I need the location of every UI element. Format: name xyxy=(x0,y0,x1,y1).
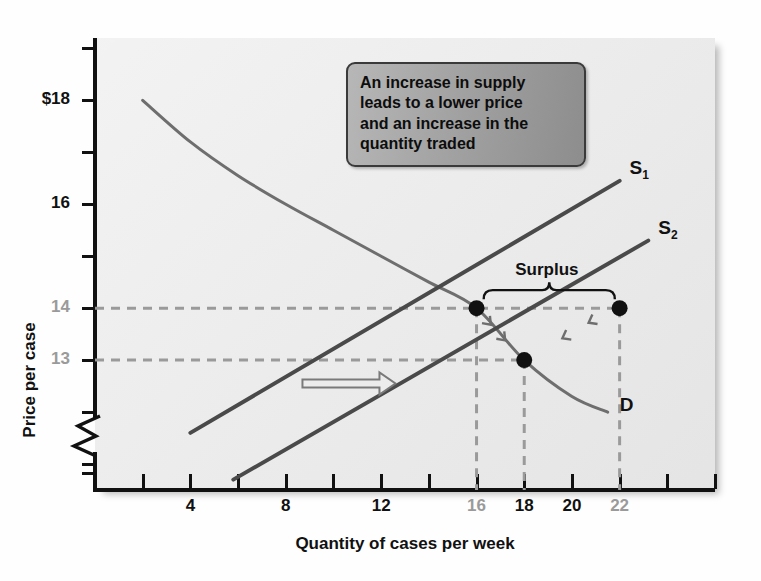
y-axis-break-icon xyxy=(62,414,102,458)
curve-label-s2: S2 xyxy=(658,217,677,242)
y-tick xyxy=(82,411,96,414)
x-tick xyxy=(523,474,526,489)
y-tick-label: 13 xyxy=(51,349,82,369)
x-tick xyxy=(189,474,192,489)
y-tick xyxy=(82,151,96,154)
callout-line-3: and an increase in the xyxy=(360,114,572,134)
x-tick xyxy=(714,474,717,489)
y-tick-label: 14 xyxy=(51,297,82,317)
y-tick-label: $18 xyxy=(42,89,82,109)
x-axis xyxy=(93,488,715,492)
callout-line-2: leads to a lower price xyxy=(360,93,572,113)
y-tick-label: 16 xyxy=(51,193,82,213)
callout-line-1: An increase in supply xyxy=(360,73,572,93)
x-tick xyxy=(380,474,383,489)
surplus-label: Surplus xyxy=(515,260,578,280)
y-axis-title: Price per case xyxy=(20,280,40,480)
x-tick-label: 20 xyxy=(552,496,592,516)
x-tick xyxy=(237,474,240,489)
x-tick-label: 8 xyxy=(266,496,306,516)
x-tick xyxy=(285,474,288,489)
x-tick xyxy=(571,474,574,489)
curve-label-d: D xyxy=(620,394,634,416)
y-tick xyxy=(82,359,96,362)
y-tick xyxy=(82,47,96,50)
callout-line-4: quantity traded xyxy=(360,134,572,154)
x-tick xyxy=(666,474,669,489)
x-axis-title: Quantity of cases per week xyxy=(95,534,715,554)
x-tick-label: 4 xyxy=(170,496,210,516)
y-tick xyxy=(82,307,96,310)
x-tick-label: 16 xyxy=(457,496,497,516)
y-tick xyxy=(82,255,96,258)
x-tick xyxy=(428,474,431,489)
figure-canvas: $18161413 481216182022 Price per case Qu… xyxy=(0,0,761,581)
x-tick-label: 12 xyxy=(361,496,401,516)
x-tick xyxy=(142,474,145,489)
y-tick-below-break xyxy=(82,472,96,475)
y-tick xyxy=(82,463,96,466)
y-tick xyxy=(82,203,96,206)
y-tick xyxy=(82,99,96,102)
callout-box: An increase in supplyleads to a lower pr… xyxy=(346,62,586,167)
curve-label-s1: S1 xyxy=(630,157,649,182)
x-tick xyxy=(332,474,335,489)
x-tick xyxy=(476,474,479,489)
x-tick-label: 22 xyxy=(600,496,640,516)
x-tick xyxy=(619,474,622,489)
x-tick-label: 18 xyxy=(504,496,544,516)
